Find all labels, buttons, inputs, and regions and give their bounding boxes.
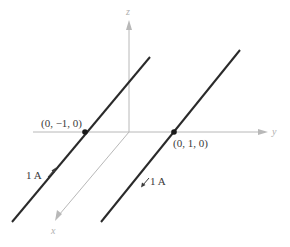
x-axis: x	[50, 132, 129, 236]
point-left-label: (0, −1, 0)	[41, 117, 82, 130]
y-axis-label: y	[271, 126, 277, 137]
parallel-wires-diagram: z y x (0, −1, 0) 1 A (0, 1, 0) 1 A	[0, 0, 290, 247]
x-axis-label: x	[50, 225, 56, 236]
current-label-right: 1 A	[150, 175, 166, 187]
point-left-dot	[82, 129, 88, 135]
z-axis-arrowhead	[126, 20, 132, 30]
wire-right: (0, 1, 0) 1 A	[101, 50, 240, 222]
y-axis-arrowhead	[258, 129, 268, 135]
z-axis-label: z	[125, 6, 130, 17]
x-axis-arrowhead	[55, 210, 62, 221]
point-right-label: (0, 1, 0)	[173, 137, 208, 150]
wire-left: (0, −1, 0) 1 A	[12, 57, 150, 222]
z-axis: z	[125, 6, 132, 132]
current-label-left: 1 A	[26, 169, 42, 181]
current-arrow-right-icon	[141, 178, 149, 188]
point-right-dot	[171, 129, 177, 135]
